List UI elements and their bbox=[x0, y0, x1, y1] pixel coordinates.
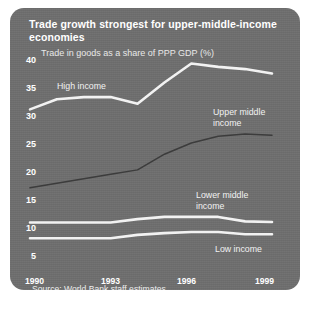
series-line-upper-middle-income bbox=[30, 134, 272, 188]
chart-plot-area bbox=[10, 8, 300, 290]
series-line-lower-middle-income bbox=[30, 217, 272, 223]
series-line-high-income bbox=[30, 63, 272, 109]
series-line-low-income bbox=[30, 232, 272, 238]
chart-panel: Trade growth strongest for upper-middle-… bbox=[10, 8, 300, 290]
